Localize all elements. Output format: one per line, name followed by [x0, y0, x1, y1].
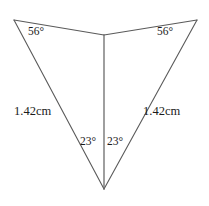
side-label-left: 1.42cm: [14, 105, 51, 118]
geometry-figure: 56° 56° 1.42cm 1.42cm 23° 23°: [0, 0, 209, 206]
angle-label-top-left: 56°: [28, 26, 44, 38]
angle-label-top-right: 56°: [157, 26, 173, 38]
angle-label-bottom-left: 23°: [80, 136, 96, 148]
angle-label-bottom-right: 23°: [107, 136, 123, 148]
side-label-right: 1.42cm: [143, 105, 180, 118]
